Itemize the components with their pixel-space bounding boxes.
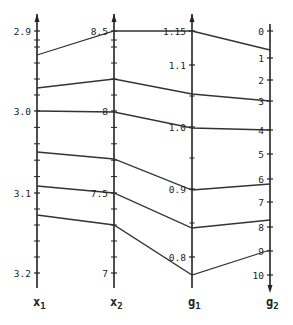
series-line-2 (37, 79, 270, 101)
arrow-up-icon (190, 14, 195, 22)
tick-label-g2: 8 (258, 222, 264, 233)
tick-label-x2: 7 (102, 268, 108, 279)
tick-label-g2: 6 (258, 174, 264, 185)
tick-label-g1: 1.1 (169, 60, 186, 71)
axis-name-x2: x2 (110, 295, 123, 311)
tick-label-g2: 10 (253, 270, 265, 281)
axis-name-g2: g2 (266, 295, 279, 311)
tick-label-g1: 1.15 (163, 26, 186, 37)
tick-label-g2: 9 (258, 246, 264, 257)
arrow-down-icon (268, 285, 273, 293)
axis-name-x1: x1 (33, 295, 46, 311)
series-line-4 (37, 152, 270, 190)
tick-label-g2: 3 (258, 96, 264, 107)
tick-label-g1: 0.8 (169, 252, 186, 263)
tick-label-x2: 8.5 (91, 26, 108, 37)
tick-label-g2: 5 (258, 149, 264, 160)
tick-label-x1: 3.2 (14, 268, 31, 279)
tick-label-g2: 7 (258, 197, 264, 208)
arrow-up-icon (35, 14, 40, 22)
tick-label-x1: 3.0 (14, 106, 31, 117)
series-lines (37, 31, 270, 275)
tick-label-x2: 8 (102, 106, 108, 117)
tick-label-x1: 2.9 (14, 26, 31, 37)
series-line-1 (37, 31, 270, 55)
tick-label-g1: 1.0 (169, 122, 186, 133)
tick-label-x1: 3.1 (14, 188, 31, 199)
arrow-up-icon (112, 14, 117, 22)
tick-label-g1: 0.9 (169, 184, 186, 195)
tick-label-g2: 2 (258, 75, 264, 86)
tick-label-g2: 0 (258, 26, 264, 37)
axis-labels: 2.93.03.13.2x18.587.57x21.151.11.00.90.8… (14, 26, 279, 312)
series-line-5 (37, 186, 270, 228)
tick-label-g2: 1 (258, 53, 264, 64)
series-line-3 (37, 111, 270, 130)
axis-name-g1: g1 (188, 295, 201, 311)
tick-label-x2: 7.5 (91, 188, 108, 199)
tick-label-g2: 4 (258, 125, 264, 136)
axes-group (34, 14, 273, 293)
parallel-coordinates-chart: 2.93.03.13.2x18.587.57x21.151.11.00.90.8… (0, 0, 293, 325)
